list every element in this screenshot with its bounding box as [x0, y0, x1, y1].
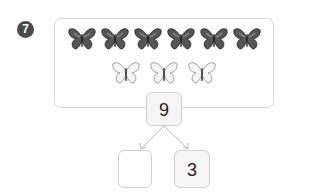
- bond-part-right-box: 3: [174, 150, 210, 188]
- bond-part-left-answer-box[interactable]: [118, 150, 152, 188]
- bond-whole-box: 9: [146, 92, 182, 126]
